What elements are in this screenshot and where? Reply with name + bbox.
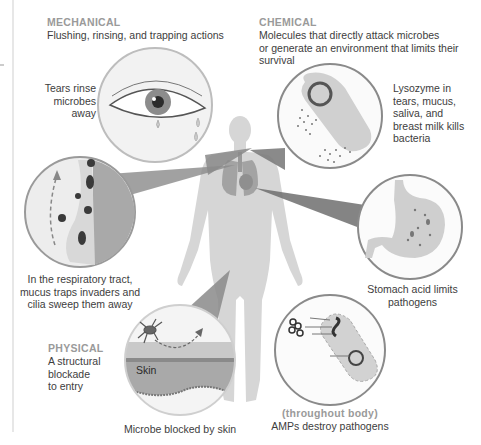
lysozyme-callout: Lysozyme in tears, mucus, saliva, and br… [393, 82, 481, 145]
stomach-callout: Stomach acid limits pathogens [355, 283, 470, 308]
mechanical-description: Flushing, rinsing, and trapping actions [47, 29, 224, 42]
mechanical-category-label: MECHANICAL [47, 16, 121, 28]
amps-callout: (throughout body) AMPs destroy pathogens [270, 407, 390, 432]
lysozyme-magnifier [278, 64, 382, 168]
chemical-description: Molecules that directly attack microbes … [259, 29, 479, 67]
physical-category-label: PHYSICAL [48, 342, 104, 354]
respiratory-callout: In the respiratory tract, mucus traps in… [10, 273, 150, 311]
skin-inner-label: Skin [136, 364, 156, 377]
physical-description: A structural blockade to entry [48, 355, 101, 393]
stomach-magnifier [358, 175, 462, 279]
skin-callout: Microbe blocked by skin [124, 423, 236, 436]
amps-magnifier [275, 295, 385, 405]
chemical-category-label: CHEMICAL [259, 16, 317, 28]
skin-magnifier [125, 305, 235, 415]
respiratory-magnifier [25, 157, 135, 267]
eye-magnifier [98, 48, 212, 162]
amps-location-label: (throughout body) [270, 407, 390, 420]
tears-callout: Tears rinse microbes away [40, 82, 96, 120]
